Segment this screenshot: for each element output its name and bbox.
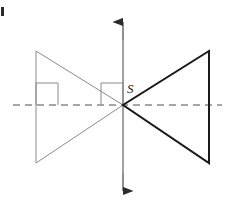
center-point-label: S bbox=[127, 81, 134, 96]
image-triangle bbox=[123, 51, 209, 163]
center-square-right-angle-marker bbox=[101, 83, 123, 105]
left-square-right-angle-marker bbox=[36, 83, 58, 105]
figure-container: S bbox=[0, 0, 231, 213]
corner-mark bbox=[1, 7, 4, 16]
geometry-diagram: S bbox=[0, 0, 231, 213]
preimage-triangle bbox=[36, 51, 123, 163]
